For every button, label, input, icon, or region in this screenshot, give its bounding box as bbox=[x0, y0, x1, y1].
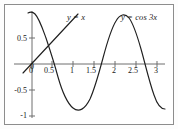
series-label-y-equals-x: y = x bbox=[67, 12, 85, 22]
y-tick-label-3: -1 bbox=[14, 111, 27, 120]
figure-frame: y = x y = cos 3x 0.5 0 -0.5 -1 0 0.5 1 1… bbox=[4, 4, 174, 125]
x-tick-label-4: 2 bbox=[112, 66, 116, 75]
figure-root: y = x y = cos 3x 0.5 0 -0.5 -1 0 0.5 1 1… bbox=[0, 0, 178, 129]
series-label-y-equals-cos-3x: y = cos 3x bbox=[121, 12, 157, 22]
x-tick-label-1: 0.5 bbox=[44, 66, 54, 75]
x-tick-label-5: 2.5 bbox=[128, 66, 138, 75]
x-tick-label-6: 3 bbox=[154, 66, 158, 75]
x-tick-label-0: 0 bbox=[29, 66, 33, 75]
curve-cos-3x bbox=[28, 12, 165, 110]
x-tick-label-3: 1.5 bbox=[86, 66, 96, 75]
y-tick-label-0: 0.5 bbox=[11, 34, 27, 43]
x-tick-label-2: 1 bbox=[70, 66, 74, 75]
y-tick-label-2: -0.5 bbox=[8, 86, 27, 95]
